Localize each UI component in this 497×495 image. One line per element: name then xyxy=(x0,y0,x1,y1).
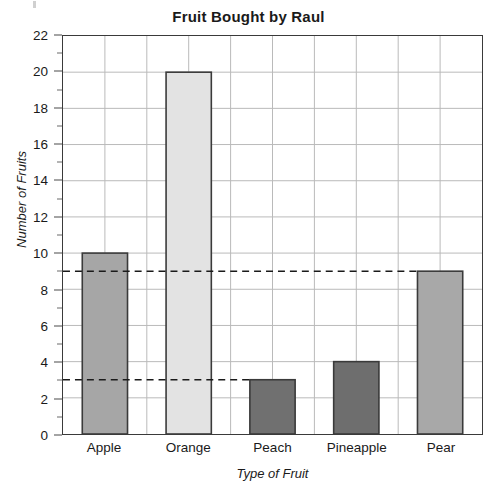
y-tick-label: 16 xyxy=(33,137,48,152)
y-axis: 0246810121416182022 xyxy=(0,35,62,435)
y-tick-major xyxy=(54,71,62,72)
y-tick-major xyxy=(54,325,62,326)
y-tick-major xyxy=(54,362,62,363)
x-axis-title: Type of Fruit xyxy=(62,466,483,481)
x-tick-label-pineapple: Pineapple xyxy=(327,440,387,455)
y-tick-label: 6 xyxy=(40,318,48,333)
y-axis-title: Number of Fruits xyxy=(14,125,29,275)
y-tick-major xyxy=(54,216,62,217)
y-tick-label: 12 xyxy=(33,209,48,224)
x-tick-label-orange: Orange xyxy=(166,440,211,455)
y-tick-major xyxy=(54,253,62,254)
y-tick-label: 8 xyxy=(40,282,48,297)
y-tick-major xyxy=(54,144,62,145)
reference-lines-group xyxy=(63,36,482,434)
x-tick-label-pear: Pear xyxy=(427,440,456,455)
y-tick-major xyxy=(54,180,62,181)
chart-title: Fruit Bought by Raul xyxy=(0,8,497,25)
x-axis: AppleOrangePeachPineapplePear xyxy=(62,440,483,462)
y-tick-major xyxy=(54,107,62,108)
y-tick-label: 20 xyxy=(33,64,48,79)
y-tick-label: 18 xyxy=(33,100,48,115)
y-tick-label: 4 xyxy=(40,355,48,370)
plot-area xyxy=(62,35,483,435)
y-tick-label: 10 xyxy=(33,246,48,261)
x-tick-label-apple: Apple xyxy=(87,440,122,455)
y-tick-major xyxy=(54,289,62,290)
x-tick-label-peach: Peach xyxy=(253,440,291,455)
y-tick-major xyxy=(54,435,62,436)
scan-artifact xyxy=(33,1,36,8)
y-tick-label: 2 xyxy=(40,391,48,406)
y-tick-label: 0 xyxy=(40,428,48,443)
y-tick-label: 22 xyxy=(33,28,48,43)
bar-chart: Fruit Bought by Raul 0246810121416182022… xyxy=(0,0,497,495)
y-tick-label: 14 xyxy=(33,173,48,188)
y-tick-major xyxy=(54,35,62,36)
y-tick-major xyxy=(54,398,62,399)
